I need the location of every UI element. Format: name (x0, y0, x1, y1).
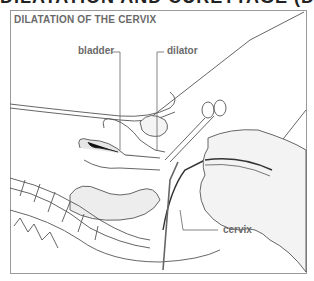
body-outline (150, 12, 304, 118)
figure-title: DILATATION OF THE CERVIX (14, 14, 156, 25)
label-cervix: cervix (223, 224, 252, 235)
label-bladder: bladder (78, 45, 114, 56)
illustration (0, 0, 314, 281)
label-dilator: dilator (167, 45, 198, 56)
